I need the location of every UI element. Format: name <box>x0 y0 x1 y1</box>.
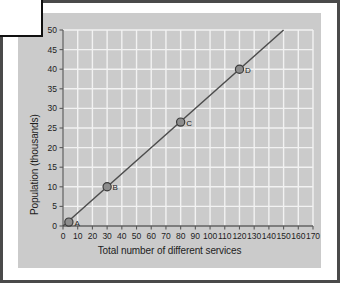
tick-marks <box>60 30 314 230</box>
y-tick-labels: 05101520253035404550 <box>48 25 58 231</box>
corner-callout-box <box>0 0 43 37</box>
chart-figure: 0102030405060708090100110120130140150160… <box>0 0 340 283</box>
data-point-b <box>103 183 111 191</box>
y-tick-label: 10 <box>48 182 58 192</box>
data-point-label-c: C <box>186 119 192 128</box>
plot-area: 0102030405060708090100110120130140150160… <box>18 13 321 268</box>
y-tick-label: 15 <box>48 162 58 172</box>
y-tick-label: 30 <box>48 103 58 113</box>
data-point-d <box>235 65 243 73</box>
y-tick-label: 25 <box>48 123 58 133</box>
y-tick-label: 20 <box>48 143 58 153</box>
data-point-label-a: A <box>74 219 80 228</box>
x-tick-label: 10 <box>73 231 83 241</box>
x-tick-label: 100 <box>203 231 217 241</box>
x-axis-title: Total number of different services <box>18 245 321 256</box>
y-tick-label: 5 <box>52 201 57 211</box>
x-tick-label: 50 <box>132 231 142 241</box>
x-tick-label: 30 <box>102 231 112 241</box>
y-tick-label: 0 <box>52 221 57 231</box>
y-axis-title: Population (thousands) <box>29 114 40 215</box>
y-tick-label: 45 <box>48 45 58 55</box>
y-tick-label: 35 <box>48 84 58 94</box>
data-point-c <box>177 118 185 126</box>
x-tick-label: 90 <box>191 231 201 241</box>
x-tick-label: 170 <box>306 231 320 241</box>
x-tick-label: 150 <box>276 231 290 241</box>
y-tick-label: 40 <box>48 64 58 74</box>
y-tick-label: 50 <box>48 25 58 35</box>
x-tick-label: 140 <box>262 231 276 241</box>
x-tick-label: 20 <box>88 231 98 241</box>
chart-panel: 0102030405060708090100110120130140150160… <box>18 13 321 268</box>
gridlines <box>63 30 313 226</box>
x-tick-label: 0 <box>61 231 66 241</box>
x-tick-labels: 0102030405060708090100110120130140150160… <box>61 231 321 241</box>
x-tick-label: 160 <box>291 231 305 241</box>
scatter-plot-svg: 0102030405060708090100110120130140150160… <box>18 13 321 268</box>
x-tick-label: 60 <box>147 231 157 241</box>
x-tick-label: 120 <box>232 231 246 241</box>
x-tick-label: 130 <box>247 231 261 241</box>
x-tick-label: 40 <box>117 231 127 241</box>
data-point-a <box>65 218 73 226</box>
x-tick-label: 80 <box>176 231 186 241</box>
x-tick-label: 110 <box>218 231 232 241</box>
data-point-label-b: B <box>113 183 118 192</box>
data-point-label-d: D <box>245 66 251 75</box>
x-tick-label: 70 <box>161 231 171 241</box>
